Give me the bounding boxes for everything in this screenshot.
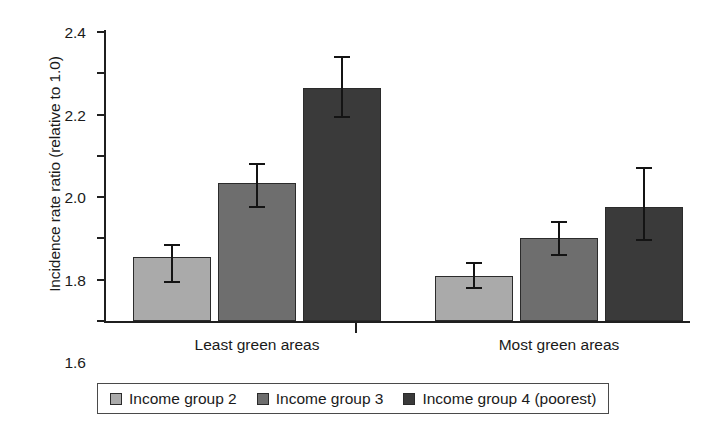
y-tick-mark: 1.6 — [97, 196, 104, 198]
error-bar-line — [643, 168, 645, 240]
error-bar-cap — [164, 281, 180, 283]
error-bar-cap — [636, 167, 652, 169]
y-tick-label: 2.2 — [64, 107, 86, 125]
y-tick-mark: 1.8 — [97, 155, 104, 157]
x-axis-group-tick — [355, 321, 357, 333]
error-bar-cap — [164, 244, 180, 246]
category-label: Least green areas — [195, 336, 320, 354]
legend-label: Income group 2 — [129, 390, 237, 408]
error-bar-cap — [466, 262, 482, 264]
y-axis-line — [104, 30, 106, 323]
y-tick-label: 1.6 — [64, 354, 86, 372]
error-bar-line — [171, 245, 173, 282]
bar-chart-figure: Incidence rate ratio (relative to 1.0) 2… — [0, 0, 720, 439]
y-tick-mark: 1.0 — [97, 320, 104, 322]
y-axis-title: Incidence rate ratio (relative to 1.0) — [46, 9, 64, 339]
legend-item: Income group 3 — [257, 390, 384, 408]
error-bar-line — [256, 164, 258, 207]
plot-area: 2.42.22.01.81.61.41.21.0 Least green are… — [104, 30, 690, 323]
error-bar-line — [558, 222, 560, 255]
chart-legend: Income group 2Income group 3Income group… — [97, 383, 609, 414]
bar — [303, 88, 381, 321]
error-bar-cap — [466, 287, 482, 289]
legend-item: Income group 2 — [110, 390, 237, 408]
error-bar-cap — [551, 254, 567, 256]
y-tick-label: 2.4 — [64, 24, 86, 42]
y-tick-mark: 1.2 — [97, 279, 104, 281]
error-bar-cap — [551, 221, 567, 223]
legend-swatch-icon — [403, 393, 415, 405]
error-bar-line — [341, 57, 343, 117]
legend-swatch-icon — [257, 393, 269, 405]
x-axis-line — [104, 321, 690, 323]
error-bar-line — [473, 263, 475, 288]
error-bar-cap — [334, 116, 350, 118]
y-tick-mark: 2.2 — [97, 72, 104, 74]
y-tick-mark: 2.4 — [97, 31, 104, 33]
legend-item: Income group 4 (poorest) — [403, 390, 596, 408]
y-tick-mark: 2.0 — [97, 114, 104, 116]
error-bar-cap — [249, 206, 265, 208]
error-bar-cap — [249, 163, 265, 165]
y-tick-mark: 1.4 — [97, 237, 104, 239]
y-tick-label: 1.8 — [64, 272, 86, 290]
legend-label: Income group 3 — [276, 390, 384, 408]
error-bar-cap — [334, 56, 350, 58]
y-tick-label: 2.0 — [64, 189, 86, 207]
legend-swatch-icon — [110, 393, 122, 405]
category-label: Most green areas — [499, 336, 620, 354]
legend-label: Income group 4 (poorest) — [422, 390, 596, 408]
error-bar-cap — [636, 239, 652, 241]
